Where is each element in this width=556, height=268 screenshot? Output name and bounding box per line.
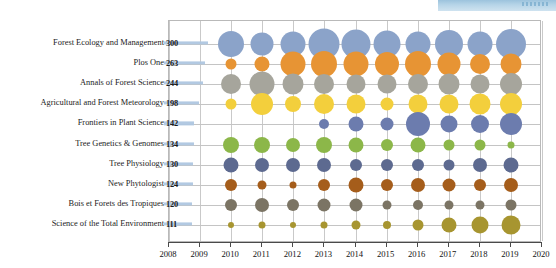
x-axis-tick-label: 2016 [408,249,425,259]
x-axis-tick [199,242,200,247]
window-chrome-dots-icon [522,2,550,6]
data-bubble [381,179,393,191]
data-bubble [255,158,269,172]
category-value: 130 [166,159,178,168]
data-bubble [343,52,368,77]
plot-area [168,20,541,242]
data-bubble [500,93,522,115]
x-axis-tick-label: 2011 [253,249,270,259]
x-axis-tick [386,242,387,247]
data-bubble [251,93,273,115]
data-bubble [406,112,430,136]
data-bubble [225,179,237,191]
data-bubble [377,75,396,94]
data-bubble [226,59,237,70]
x-axis-tick [417,242,418,247]
x-axis-tick-label: 2010 [222,249,239,259]
x-axis-tick-label: 2019 [501,249,518,259]
data-bubble [383,221,391,229]
data-bubble [405,51,431,77]
data-bubble [318,179,330,191]
data-bubble [346,75,365,94]
category-value: 134 [166,139,178,148]
data-bubble [286,138,300,152]
data-bubble [443,139,454,150]
data-bubble [255,57,270,72]
category-label: Science of the Total Environment [0,220,164,228]
data-bubble [411,178,425,192]
data-bubble [470,75,489,94]
data-bubble [348,137,363,152]
data-bubble [475,200,484,209]
data-bubble [440,116,457,133]
data-bubble [382,200,391,209]
data-bubble [259,221,266,228]
data-bubble [221,74,241,94]
data-bubble [444,200,453,209]
x-axis-tick-label: 2015 [377,249,394,259]
gridline-vertical [200,21,201,241]
category-value: 263 [166,59,178,68]
data-bubble [474,139,485,150]
data-bubble [286,158,300,172]
data-bubble [437,53,460,76]
data-bubble [470,54,490,74]
data-bubble [381,159,393,171]
x-axis-tick-label: 2020 [532,249,549,259]
category-value: 111 [166,219,177,228]
data-bubble [505,199,516,210]
data-bubble [224,157,239,172]
x-axis-tick [168,242,169,247]
x-axis-tick [448,242,449,247]
data-bubble [287,199,299,211]
data-bubble [474,179,486,191]
data-bubble [469,94,490,115]
x-axis-tick-label: 2018 [470,249,487,259]
category-value: 244 [166,79,178,88]
data-bubble [500,113,522,135]
data-bubble [318,198,331,211]
gridline-vertical [542,21,543,241]
data-bubble [473,158,487,172]
category-label: Annals of Forest Science [0,79,164,87]
category-label-column: Forest Ecology and ManagementPlos OneAnn… [0,20,164,242]
category-label: Agricultural and Forest Meteorology [0,99,164,107]
data-bubble [319,119,329,129]
category-value: 142 [166,119,178,128]
x-axis-tick-label: 2017 [439,249,456,259]
data-bubble [290,222,296,228]
data-bubble [413,200,423,210]
x-axis-tick [479,242,480,247]
category-label: Plos One [0,59,164,67]
x-axis-tick [541,242,542,247]
data-bubble [500,73,522,95]
bubble-chart-page: Forest Ecology and ManagementPlos OneAnn… [0,0,556,268]
data-bubble [504,178,518,192]
category-label: Tree Genetics & Genomes [0,139,164,147]
data-bubble [442,178,455,191]
data-bubble [290,181,297,188]
x-axis-tick-label: 2014 [346,249,363,259]
data-bubble [311,51,337,77]
data-bubble [381,139,393,151]
data-bubble [471,115,489,133]
category-label: Bois et Forets des Tropiques [0,200,164,208]
data-bubble [500,54,521,75]
category-label: Tree Physiology [0,159,164,167]
data-bubble [503,157,518,172]
data-bubble [283,74,304,95]
data-bubble [317,158,331,172]
category-label: Forest Ecology and Management [0,39,164,47]
x-axis-tick [292,242,293,247]
x-axis-tick-label: 2012 [284,249,301,259]
data-bubble [349,198,362,211]
data-bubble [255,198,269,212]
x-axis-tick [323,242,324,247]
data-bubble [225,199,237,211]
category-label: New Phytologist [0,179,164,187]
data-bubble [408,95,427,114]
data-bubble [380,98,393,111]
data-bubble [321,221,328,228]
category-label: Frontiers in Plant Science [0,119,164,127]
x-axis-tick [230,242,231,247]
